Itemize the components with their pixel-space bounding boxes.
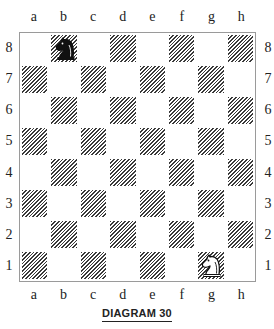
square-c2 xyxy=(79,219,108,250)
file-label: a xyxy=(19,286,49,304)
square-a7 xyxy=(20,64,49,95)
chess-board xyxy=(19,32,256,282)
square-c3 xyxy=(79,188,108,219)
file-label: d xyxy=(108,8,138,26)
square-c4 xyxy=(79,157,108,188)
square-e2 xyxy=(138,219,167,250)
square-g2 xyxy=(196,219,225,250)
square-e3 xyxy=(138,188,167,219)
square-c6 xyxy=(79,95,108,126)
rank-label: 3 xyxy=(0,188,18,219)
rank-label: 5 xyxy=(0,126,18,157)
square-d1 xyxy=(108,250,137,281)
rank-label: 3 xyxy=(259,188,274,219)
diagram-caption: DIAGRAM 30 xyxy=(0,307,274,322)
square-g1 xyxy=(196,250,225,281)
square-a8 xyxy=(20,33,49,64)
rank-label: 4 xyxy=(259,157,274,188)
square-f6 xyxy=(167,95,196,126)
square-b4 xyxy=(49,157,78,188)
square-f2 xyxy=(167,219,196,250)
square-a4 xyxy=(20,157,49,188)
square-b2 xyxy=(49,219,78,250)
file-labels-bottom: a b c d e f g h xyxy=(19,286,256,304)
square-g4 xyxy=(196,157,225,188)
square-f1 xyxy=(167,250,196,281)
square-c8 xyxy=(79,33,108,64)
rank-label: 2 xyxy=(259,220,274,251)
square-f8 xyxy=(167,33,196,64)
rank-labels-left: 8 7 6 5 4 3 2 1 xyxy=(0,32,18,282)
file-label: h xyxy=(226,286,256,304)
square-h8 xyxy=(226,33,255,64)
square-g7 xyxy=(196,64,225,95)
rank-labels-right: 8 7 6 5 4 3 2 1 xyxy=(259,32,274,282)
file-label: f xyxy=(167,286,197,304)
square-e5 xyxy=(138,126,167,157)
square-b3 xyxy=(49,188,78,219)
square-e8 xyxy=(138,33,167,64)
square-d8 xyxy=(108,33,137,64)
square-b5 xyxy=(49,126,78,157)
rank-label: 6 xyxy=(0,95,18,126)
square-a6 xyxy=(20,95,49,126)
square-a1 xyxy=(20,250,49,281)
square-b8 xyxy=(49,33,78,64)
file-label: e xyxy=(138,8,168,26)
file-label: e xyxy=(138,286,168,304)
square-h3 xyxy=(226,188,255,219)
file-label: c xyxy=(78,286,108,304)
square-h6 xyxy=(226,95,255,126)
rank-label: 4 xyxy=(0,157,18,188)
rank-label: 1 xyxy=(259,251,274,282)
square-d7 xyxy=(108,64,137,95)
file-label: f xyxy=(167,8,197,26)
file-label: d xyxy=(108,286,138,304)
square-h4 xyxy=(226,157,255,188)
rank-label: 5 xyxy=(259,126,274,157)
square-a2 xyxy=(20,219,49,250)
file-label: g xyxy=(197,8,227,26)
rank-label: 6 xyxy=(259,95,274,126)
white-knight-icon xyxy=(198,253,223,278)
square-a5 xyxy=(20,126,49,157)
square-d3 xyxy=(108,188,137,219)
rank-label: 1 xyxy=(0,251,18,282)
square-a3 xyxy=(20,188,49,219)
square-g3 xyxy=(196,188,225,219)
rank-label: 8 xyxy=(259,32,274,63)
square-c1 xyxy=(79,250,108,281)
square-d4 xyxy=(108,157,137,188)
rank-label: 7 xyxy=(0,63,18,94)
black-knight-icon xyxy=(52,36,77,61)
rank-label: 2 xyxy=(0,220,18,251)
square-g5 xyxy=(196,126,225,157)
square-b6 xyxy=(49,95,78,126)
caption-text: DIAGRAM 30 xyxy=(102,307,172,322)
square-g8 xyxy=(196,33,225,64)
square-c7 xyxy=(79,64,108,95)
file-label: b xyxy=(49,286,79,304)
square-d5 xyxy=(108,126,137,157)
file-label: c xyxy=(78,8,108,26)
square-g6 xyxy=(196,95,225,126)
square-e6 xyxy=(138,95,167,126)
square-h1 xyxy=(226,250,255,281)
square-h5 xyxy=(226,126,255,157)
rank-label: 8 xyxy=(0,32,18,63)
file-label: h xyxy=(226,8,256,26)
square-f7 xyxy=(167,64,196,95)
file-label: a xyxy=(19,8,49,26)
square-e7 xyxy=(138,64,167,95)
square-h7 xyxy=(226,64,255,95)
square-h2 xyxy=(226,219,255,250)
rank-label: 7 xyxy=(259,63,274,94)
square-c5 xyxy=(79,126,108,157)
square-f4 xyxy=(167,157,196,188)
square-d2 xyxy=(108,219,137,250)
file-labels-top: a b c d e f g h xyxy=(19,8,256,26)
file-label: g xyxy=(197,286,227,304)
square-f5 xyxy=(167,126,196,157)
square-e4 xyxy=(138,157,167,188)
square-b1 xyxy=(49,250,78,281)
